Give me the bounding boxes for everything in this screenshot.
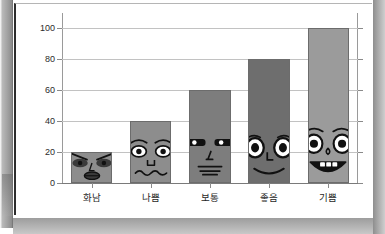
bar-joyful[interactable] xyxy=(308,28,349,183)
x-tick-mark xyxy=(151,183,152,188)
x-tick-label: 화남 xyxy=(63,190,120,204)
bar-happy[interactable] xyxy=(248,59,289,183)
bar-slot xyxy=(300,13,357,183)
bar-sad[interactable] xyxy=(130,121,171,183)
y-tick-mark xyxy=(57,183,62,184)
bar-group xyxy=(62,13,358,183)
x-tick-label: 기쁨 xyxy=(300,190,357,204)
y-tick-label: 80 xyxy=(45,54,55,64)
bar-chart: 020406080100 xyxy=(14,3,372,215)
x-tick-label: 좋음 xyxy=(240,190,297,204)
screenshot-frame: 020406080100 xyxy=(0,0,385,234)
scan-artifact xyxy=(2,174,13,216)
joyful-face xyxy=(308,125,349,180)
bar-slot xyxy=(240,13,297,183)
y-tick-mark-right xyxy=(358,28,363,29)
bar-angry[interactable] xyxy=(71,152,112,183)
bar-neutral[interactable] xyxy=(189,90,230,183)
y-tick-mark-right xyxy=(358,152,363,153)
page-edge-bottom xyxy=(13,218,373,234)
y-tick-mark-right xyxy=(358,59,363,60)
y-tick-mark-right xyxy=(358,121,363,122)
y-tick-label: 20 xyxy=(45,147,55,157)
happy-face xyxy=(248,133,289,180)
angry-face xyxy=(71,152,112,180)
x-tick-label: 보통 xyxy=(181,190,238,204)
x-axis-labels: 화남나쁨보통좋음기쁨 xyxy=(62,190,358,204)
y-tick-mark-right xyxy=(358,183,363,184)
x-tick-mark xyxy=(269,183,270,188)
x-tick-mark xyxy=(210,183,211,188)
bar-slot xyxy=(63,13,120,183)
y-tick-mark-right xyxy=(358,90,363,91)
x-tick-mark xyxy=(92,183,93,188)
x-tick-mark xyxy=(328,183,329,188)
x-tick-label: 나쁨 xyxy=(122,190,179,204)
y-tick-label: 60 xyxy=(45,85,55,95)
page-edge-right xyxy=(373,0,385,234)
bar-slot xyxy=(181,13,238,183)
bar-slot xyxy=(122,13,179,183)
y-tick-label: 100 xyxy=(40,23,55,33)
plot-area: 020406080100 xyxy=(62,13,358,183)
sad-face xyxy=(130,135,171,180)
neutral-face xyxy=(189,130,230,180)
y-tick-label: 0 xyxy=(50,178,55,188)
y-tick-label: 40 xyxy=(45,116,55,126)
